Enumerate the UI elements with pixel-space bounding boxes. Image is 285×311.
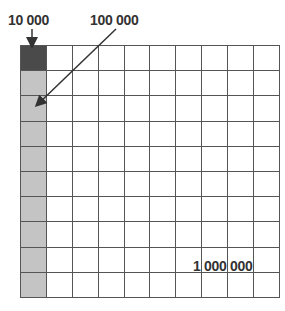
arrow-to-light-column — [37, 29, 116, 105]
arrows — [0, 0, 285, 311]
